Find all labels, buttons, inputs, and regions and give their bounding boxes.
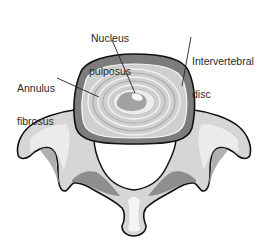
label-intervertebral-disc: Intervertebral disc bbox=[192, 34, 254, 111]
label-intervertebral-line1: Intervertebral bbox=[192, 56, 254, 67]
label-nucleus-line1: Nucleus bbox=[80, 33, 140, 44]
label-annulus-line1: Annulus bbox=[17, 83, 55, 94]
label-annulus-fibrosus: Annulus fibrosus bbox=[17, 61, 55, 138]
label-intervertebral-line2: disc bbox=[192, 89, 254, 100]
label-annulus-line2: fibrosus bbox=[17, 116, 55, 127]
label-nucleus-line2: pulposus bbox=[80, 66, 140, 77]
label-nucleus-pulposus: Nucleus pulposus bbox=[80, 11, 140, 88]
spinous-process-highlight bbox=[128, 197, 140, 232]
